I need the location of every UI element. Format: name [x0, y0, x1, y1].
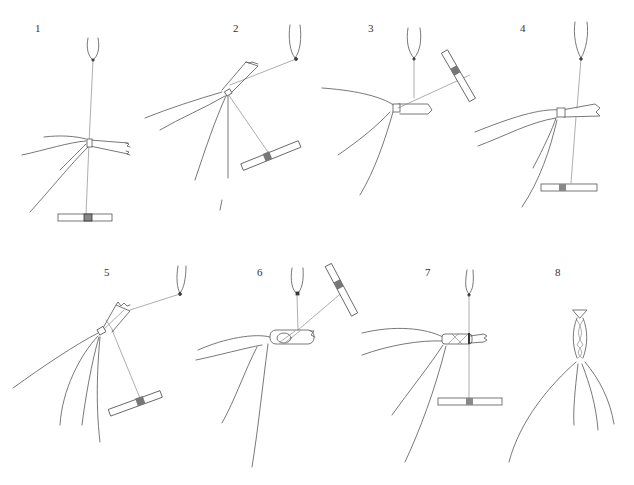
fork-holder-icon: [289, 25, 301, 58]
panel-4-drawing: [475, 22, 600, 207]
panel-2-drawing: [145, 25, 301, 210]
binding-cap-icon: [573, 310, 587, 318]
panel-8-drawing: [509, 310, 614, 462]
bobbin-icon: [325, 263, 357, 316]
fork-holder-icon: [291, 268, 303, 294]
illustration: [0, 0, 634, 485]
panel-7-drawing: [362, 270, 502, 462]
panel-6-drawing: [196, 263, 358, 467]
panel-5-drawing: [13, 266, 186, 442]
bobbin-icon: [541, 184, 597, 191]
fork-holder-icon: [87, 38, 99, 60]
panel-1-drawing: [22, 38, 130, 221]
bobbin-icon: [108, 391, 162, 416]
fork-holder-icon: [177, 266, 186, 293]
bobbin-icon: [441, 50, 475, 102]
fork-holder-icon: [407, 28, 421, 58]
fork-holder-icon: [574, 22, 587, 58]
figure-stage: 1 2 3 4 5 6 7 8: [0, 0, 634, 485]
panel-3-drawing: [322, 28, 475, 195]
fork-holder-icon: [466, 270, 474, 294]
